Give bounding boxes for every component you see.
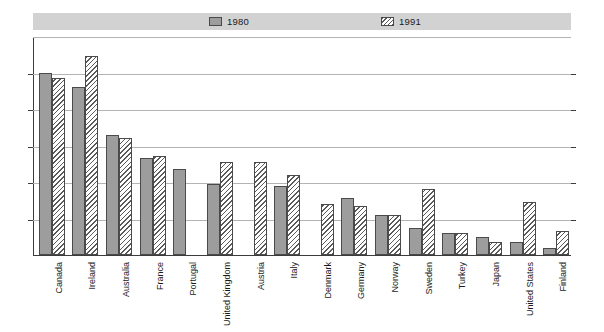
y-tick-mark-right-50 bbox=[571, 74, 576, 75]
y-tick-mark-right-20 bbox=[571, 183, 576, 184]
x-axis-label: Canada bbox=[55, 262, 64, 294]
bar-group bbox=[510, 37, 536, 255]
legend-swatch-icon-1991 bbox=[381, 17, 394, 26]
bar bbox=[85, 56, 98, 255]
bar bbox=[140, 158, 153, 255]
x-axis-label: Italy bbox=[290, 262, 299, 279]
bar bbox=[106, 135, 119, 255]
bar bbox=[153, 156, 166, 255]
x-axis-label: Portugal bbox=[189, 262, 198, 296]
bar bbox=[207, 184, 220, 255]
bar bbox=[489, 242, 502, 255]
bar-group bbox=[341, 37, 367, 255]
bar bbox=[476, 237, 489, 255]
x-axis-label: United Kingdom bbox=[223, 262, 232, 326]
bar-group bbox=[39, 37, 65, 255]
legend-swatch-icon-1980 bbox=[209, 17, 222, 26]
bar-chart: 1980 1991 00101020203030404050506060 Can… bbox=[0, 0, 604, 332]
y-tick-mark-left-30 bbox=[28, 147, 33, 148]
bar bbox=[354, 206, 367, 255]
bar-group bbox=[207, 37, 233, 255]
x-axis-label: Australia bbox=[122, 262, 131, 297]
bar bbox=[523, 202, 536, 255]
bar bbox=[173, 169, 186, 255]
x-axis-label: Austria bbox=[257, 262, 266, 290]
bar bbox=[442, 233, 455, 255]
x-axis-label: Turkey bbox=[458, 262, 467, 289]
bar bbox=[422, 189, 435, 255]
bar-group bbox=[476, 37, 502, 255]
y-tick-mark-left-40 bbox=[28, 110, 33, 111]
plot-area: 00101020203030404050506060 bbox=[33, 37, 571, 256]
x-axis-label: Sweden bbox=[425, 262, 434, 295]
bar-group bbox=[106, 37, 132, 255]
y-tick-mark-right-40 bbox=[571, 110, 576, 111]
bar-group bbox=[173, 37, 199, 255]
legend-item-1991: 1991 bbox=[381, 13, 421, 30]
bar-group bbox=[274, 37, 300, 255]
legend-item-1980: 1980 bbox=[209, 13, 249, 30]
legend-label-1980: 1980 bbox=[227, 17, 249, 27]
x-axis-label: Denmark bbox=[324, 262, 333, 299]
bar-group bbox=[308, 37, 334, 255]
bar bbox=[375, 215, 388, 255]
bar bbox=[510, 242, 523, 255]
x-axis-label: Norway bbox=[391, 262, 400, 293]
bar-group bbox=[72, 37, 98, 255]
x-axis-label: Germany bbox=[357, 262, 366, 299]
bar-group bbox=[543, 37, 569, 255]
y-tick-mark-left-10 bbox=[28, 220, 33, 221]
bar bbox=[72, 87, 85, 255]
bar-group bbox=[375, 37, 401, 255]
bar bbox=[274, 186, 287, 255]
bar bbox=[409, 228, 422, 255]
x-axis-label: Finland bbox=[559, 262, 568, 292]
bar bbox=[388, 215, 401, 255]
x-axis-label: France bbox=[156, 262, 165, 290]
bar bbox=[543, 248, 556, 255]
bar-group bbox=[241, 37, 267, 255]
bar bbox=[119, 138, 132, 255]
bar bbox=[455, 233, 468, 255]
y-tick-mark-left-20 bbox=[28, 183, 33, 184]
bar-group bbox=[140, 37, 166, 255]
y-tick-mark-right-30 bbox=[571, 147, 576, 148]
x-axis-label: United States bbox=[526, 262, 535, 316]
chart-legend: 1980 1991 bbox=[33, 13, 571, 30]
bar bbox=[287, 175, 300, 255]
legend-label-1991: 1991 bbox=[399, 17, 421, 27]
bar bbox=[341, 198, 354, 255]
y-tick-mark-right-10 bbox=[571, 220, 576, 221]
x-axis-label: Ireland bbox=[88, 262, 97, 290]
bar bbox=[220, 162, 233, 255]
bar-group bbox=[409, 37, 435, 255]
x-axis-line bbox=[33, 255, 571, 256]
bar bbox=[39, 73, 52, 256]
bar bbox=[556, 231, 569, 255]
bar bbox=[52, 78, 65, 255]
bar-group bbox=[442, 37, 468, 255]
bar bbox=[321, 204, 334, 255]
x-axis-label: Japan bbox=[492, 262, 501, 287]
bar bbox=[254, 162, 267, 255]
y-tick-mark-left-50 bbox=[28, 74, 33, 75]
